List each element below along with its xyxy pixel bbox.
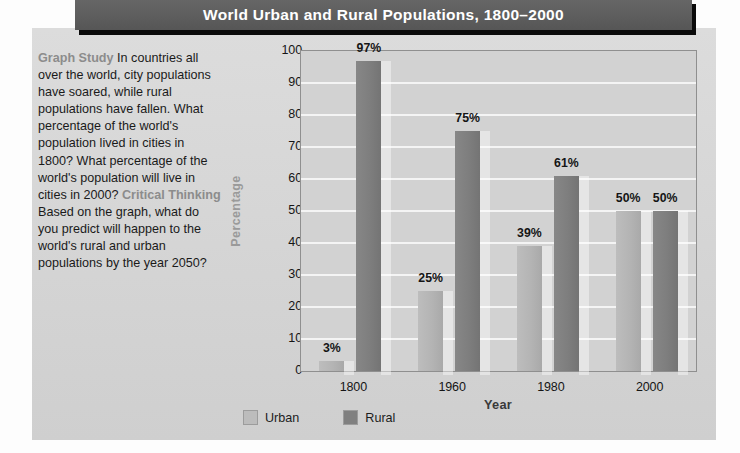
y-axis-tick-label: 90 (262, 75, 302, 89)
y-axis-tick-label: 100 (262, 43, 302, 57)
bar-shadow (443, 291, 453, 375)
y-axis-tick-label: 40 (262, 235, 302, 249)
bar-value-label: 3% (323, 341, 341, 355)
x-axis-tick-label: 1960 (438, 380, 465, 394)
bar-value-label: 39% (517, 226, 542, 240)
page-title: World Urban and Rural Populations, 1800–… (203, 6, 564, 24)
y-axis-tick-label: 0 (262, 363, 302, 377)
legend-label: Urban (265, 411, 299, 425)
legend-swatch-icon (243, 410, 258, 425)
y-axis-tick-label: 60 (262, 171, 302, 185)
bar-shadow (542, 246, 552, 375)
bar-value-label: 50% (616, 191, 641, 205)
legend-swatch-icon (343, 410, 358, 425)
bar-value-label: 75% (455, 111, 480, 125)
critical-thinking-body: Based on the graph, what do you predict … (38, 205, 207, 270)
bar-shadow (381, 61, 391, 375)
bar-1800-rural[interactable] (356, 61, 381, 371)
bar-value-label: 50% (653, 191, 678, 205)
x-axis-tick-label: 1980 (537, 380, 564, 394)
y-axis-tick-label: 70 (262, 139, 302, 153)
legend-item-urban[interactable]: Urban (243, 410, 299, 425)
bar-2000-rural[interactable] (653, 211, 678, 371)
y-axis-tick-label: 30 (262, 267, 302, 281)
bar-value-label: 61% (554, 156, 579, 170)
y-axis-tick-label: 10 (262, 331, 302, 345)
bar-shadow (480, 131, 490, 375)
bar-value-label: 25% (418, 271, 443, 285)
bar-1980-rural[interactable] (554, 176, 579, 371)
x-axis-tick-label: 1800 (340, 380, 367, 394)
bar-2000-urban[interactable] (616, 211, 641, 371)
bar-1960-rural[interactable] (455, 131, 480, 371)
page-root: World Urban and Rural Populations, 1800–… (0, 0, 740, 453)
y-axis-tick-label: 50 (262, 203, 302, 217)
plot-area: 3%97%25%75%39%61%50%50% (300, 50, 697, 372)
bar-value-label: 97% (357, 41, 382, 55)
y-axis-tick-label: 20 (262, 299, 302, 313)
y-axis-title: Percentage (229, 175, 243, 246)
title-banner: World Urban and Rural Populations, 1800–… (75, 0, 692, 30)
critical-thinking-heading: Critical Thinking (122, 188, 221, 202)
graph-study-text: Graph Study In countries all over the wo… (38, 50, 222, 272)
legend-label: Rural (365, 411, 395, 425)
graph-study-body: In countries all over the world, city po… (38, 51, 211, 202)
bar-shadow (678, 211, 688, 375)
bar-1980-urban[interactable] (517, 246, 542, 371)
bar-shadow (579, 176, 589, 375)
y-axis-tick-label: 80 (262, 107, 302, 121)
bar-chart: Percentage 0102030405060708090100 3%97%2… (246, 40, 706, 440)
bar-shadow (641, 211, 651, 375)
x-axis-tick-label: 2000 (636, 380, 663, 394)
graph-study-heading: Graph Study (38, 51, 114, 65)
chart-legend: UrbanRural (243, 410, 395, 425)
bar-shadow (344, 361, 354, 375)
bar-1960-urban[interactable] (418, 291, 443, 371)
legend-item-rural[interactable]: Rural (343, 410, 395, 425)
x-axis-title: Year (484, 397, 512, 412)
bar-1800-urban[interactable] (319, 361, 344, 371)
